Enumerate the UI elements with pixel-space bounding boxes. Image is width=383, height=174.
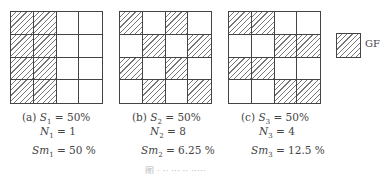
empty-cell (79, 12, 102, 35)
panel-c-s-value: = 50% (273, 111, 308, 123)
grid-panel-c (228, 11, 321, 104)
hatched-cell (120, 58, 143, 81)
legend-hatched-square-icon (336, 33, 361, 58)
figure-caption: 图 · ·· ··· ·· ····· (145, 164, 206, 174)
sm-symbol: Sm (141, 144, 158, 156)
panel-b-n-value: = 8 (167, 125, 186, 137)
n-subscript: 2 (159, 132, 163, 140)
hatched-cell (34, 35, 57, 58)
empty-cell (275, 58, 298, 81)
panel-c-n-line: N3 = 4 (259, 125, 295, 142)
sm-subscript: 1 (49, 151, 53, 159)
n-symbol: N (150, 125, 159, 137)
hatched-cell (252, 58, 275, 81)
n-subscript: 3 (268, 132, 272, 140)
hatched-cell (229, 12, 252, 35)
hatched-cell (275, 35, 298, 58)
legend-label: GF (365, 38, 380, 49)
panel-c-sm-line: Sm3 = 12.5 % (251, 144, 325, 161)
grid-panel-b (119, 11, 212, 104)
hatched-cell (34, 12, 57, 35)
hatched-cell (229, 58, 252, 81)
empty-cell (166, 80, 189, 103)
hatched-cell (11, 35, 34, 58)
empty-cell (143, 58, 166, 81)
hatched-cell (166, 12, 189, 35)
panel-a-n-line: N1 = 1 (40, 125, 76, 142)
empty-cell (297, 12, 320, 35)
empty-cell (275, 12, 298, 35)
sm-subscript: 3 (268, 151, 272, 159)
empty-cell (297, 58, 320, 81)
empty-cell (57, 12, 80, 35)
s-symbol: S (40, 111, 47, 123)
panel-a-label: (a) (22, 111, 36, 123)
sm-symbol: Sm (251, 144, 268, 156)
panel-b-s-value: = 50% (165, 111, 200, 123)
hatched-cell (11, 12, 34, 35)
hatched-cell (34, 58, 57, 81)
hatched-cell (275, 80, 298, 103)
panel-c-n-value: = 4 (276, 125, 295, 137)
empty-cell (57, 58, 80, 81)
hatched-cell (297, 80, 320, 103)
panel-a-sm-value: = 50 % (57, 144, 96, 156)
hatched-cell (11, 58, 34, 81)
hatched-cell (188, 80, 211, 103)
n-subscript: 1 (49, 132, 53, 140)
panel-b-sm-line: Sm2 = 6.25 % (141, 144, 215, 161)
hatched-cell (143, 35, 166, 58)
panel-b-label: (b) (132, 111, 147, 123)
s-symbol: S (258, 111, 265, 123)
empty-cell (79, 35, 102, 58)
grid-panel-a (10, 11, 103, 104)
empty-cell (57, 80, 80, 103)
empty-cell (188, 58, 211, 81)
empty-cell (79, 58, 102, 81)
hatched-cell (120, 12, 143, 35)
empty-cell (143, 12, 166, 35)
panel-a-s-value: = 50% (55, 111, 90, 123)
empty-cell (120, 80, 143, 103)
panel-c-label: (c) (241, 111, 255, 123)
n-symbol: N (40, 125, 49, 137)
hatched-cell (188, 35, 211, 58)
empty-cell (57, 35, 80, 58)
sm-subscript: 2 (158, 151, 162, 159)
empty-cell (79, 80, 102, 103)
empty-cell (229, 35, 252, 58)
hatched-cell (297, 35, 320, 58)
hatched-cell (252, 12, 275, 35)
hatched-cell (143, 80, 166, 103)
n-symbol: N (259, 125, 268, 137)
panel-a-sm-line: Sm1 = 50 % (32, 144, 96, 161)
empty-cell (120, 35, 143, 58)
empty-cell (252, 80, 275, 103)
panel-a-n-value: = 1 (57, 125, 76, 137)
panel-b-n-line: N2 = 8 (150, 125, 186, 142)
empty-cell (252, 35, 275, 58)
panel-b-sm-value: = 6.25 % (166, 144, 215, 156)
hatched-cell (34, 80, 57, 103)
hatched-cell (166, 58, 189, 81)
panel-c-sm-value: = 12.5 % (276, 144, 325, 156)
empty-cell (229, 80, 252, 103)
empty-cell (166, 35, 189, 58)
empty-cell (188, 12, 211, 35)
sm-symbol: Sm (32, 144, 49, 156)
hatched-cell (11, 80, 34, 103)
